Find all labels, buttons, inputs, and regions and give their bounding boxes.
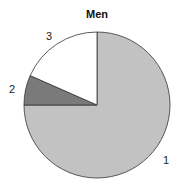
slice-label-2: 2: [9, 83, 15, 95]
slice-label-3: 3: [46, 30, 52, 42]
pie-chart: [0, 0, 186, 191]
slice-label-1: 1: [163, 154, 169, 166]
